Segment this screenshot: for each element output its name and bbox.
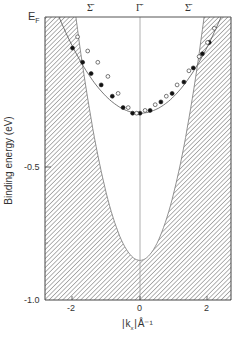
open-data-point xyxy=(164,94,168,98)
open-data-point xyxy=(76,35,80,39)
x-tick-label-zero: 0 xyxy=(137,303,142,313)
y-tick-label-ef: EF xyxy=(28,10,40,24)
filled-data-point xyxy=(89,72,93,76)
y-tick-label-bottom: -1.0 xyxy=(24,295,40,305)
open-data-point xyxy=(135,111,139,115)
x-axis-label-unit: Å⁻¹ xyxy=(138,318,153,329)
filled-data-point xyxy=(121,106,125,110)
y-tick-label-mid: -0.5 xyxy=(24,162,40,172)
filled-data-points xyxy=(71,41,212,116)
filled-data-point xyxy=(148,108,152,112)
open-data-point xyxy=(143,109,147,113)
open-data-point xyxy=(175,83,179,87)
open-data-point xyxy=(197,55,201,59)
y-axis-label: Binding energy (eV) xyxy=(3,116,14,204)
filled-data-point xyxy=(81,60,85,64)
x-tick-label-neg2: -2 xyxy=(67,303,75,313)
open-data-point xyxy=(106,75,110,79)
open-data-point xyxy=(116,92,120,96)
open-data-point xyxy=(212,26,216,30)
filled-data-point xyxy=(71,46,75,50)
plot-area xyxy=(40,0,240,310)
filled-data-point xyxy=(110,94,114,98)
filled-data-point xyxy=(200,52,204,56)
x-tick-label-pos2: 2 xyxy=(204,303,209,313)
x-axis-label-sub: x xyxy=(130,325,133,331)
open-data-point xyxy=(126,106,130,110)
sigma-left-label: Σ̄ xyxy=(87,2,93,13)
open-data-point xyxy=(206,41,210,45)
filled-data-point xyxy=(159,100,163,104)
open-data-point xyxy=(187,69,191,73)
gamma-label: Γ̄ xyxy=(136,2,142,13)
x-axis-label: | kx | Å⁻¹ xyxy=(122,318,153,331)
filled-data-point xyxy=(182,80,186,84)
open-data-point xyxy=(86,49,90,53)
open-data-point xyxy=(153,103,157,107)
filled-data-point xyxy=(99,83,103,87)
filled-data-point xyxy=(170,91,174,95)
filled-data-point xyxy=(191,66,195,70)
sigma-right-label: Σ̄ xyxy=(185,2,191,13)
filled-data-point xyxy=(131,111,135,115)
ef-subscript: F xyxy=(35,17,39,24)
open-data-point xyxy=(96,60,100,64)
